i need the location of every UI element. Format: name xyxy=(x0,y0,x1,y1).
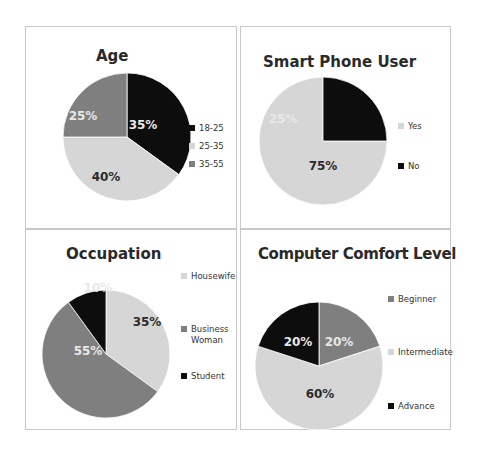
slice-value-label: 10% xyxy=(84,281,113,295)
slice-value-label: 60% xyxy=(306,387,335,401)
legend-label: Business Woman xyxy=(191,324,228,346)
pie-slice-no xyxy=(323,77,387,141)
swatch-35-55 xyxy=(189,161,195,167)
legend-item-18-25: 18-25 xyxy=(189,123,224,134)
legend-label: Student xyxy=(191,371,224,382)
legend-label: 35-55 xyxy=(199,159,224,170)
legend-label: 25-35 xyxy=(199,141,224,152)
slice-value-label: 20% xyxy=(325,335,354,349)
swatch-student xyxy=(181,373,187,379)
legend-item-yes: Yes xyxy=(398,121,422,132)
legend-item-no: No xyxy=(398,161,420,172)
age-chart-panel: Age 35%40%25% 18-25 25-35 35-55 xyxy=(25,26,237,229)
legend-label: No xyxy=(408,161,420,172)
slice-value-label: 35% xyxy=(133,315,162,329)
swatch-intermediate xyxy=(388,349,394,355)
pie-slice-35-55 xyxy=(63,73,127,137)
slice-value-label: 55% xyxy=(74,344,103,358)
legend-label: Beginner xyxy=(398,294,436,305)
swatch-business-woman xyxy=(181,326,187,332)
swatch-housewife xyxy=(181,273,187,279)
slice-value-label: 40% xyxy=(92,170,121,184)
slice-value-label: 75% xyxy=(309,159,338,173)
swatch-25-35 xyxy=(189,143,195,149)
comfort-chart-panel: Computer Comfort Level 20%60%20% Beginne… xyxy=(240,229,451,430)
legend-item-student: Student xyxy=(181,371,224,382)
swatch-yes xyxy=(398,123,404,129)
swatch-18-25 xyxy=(189,125,195,131)
legend-label: Yes xyxy=(408,121,422,132)
legend-label: Intermediate xyxy=(398,347,453,358)
swatch-beginner xyxy=(388,296,394,302)
legend-label: Housewife xyxy=(191,271,235,282)
legend-item-advance: Advance xyxy=(388,401,435,412)
slice-value-label: 35% xyxy=(129,118,158,132)
slice-value-label: 20% xyxy=(284,335,313,349)
legend-item-25-35: 25-35 xyxy=(189,141,224,152)
slice-value-label: 25% xyxy=(269,112,298,126)
occupation-chart-panel: Occupation 35%55%10% Housewife Business … xyxy=(25,229,237,430)
legend-item-housewife: Housewife xyxy=(181,271,235,282)
legend-item-35-55: 35-55 xyxy=(189,159,224,170)
legend-label: 18-25 xyxy=(199,123,224,134)
legend-item-intermediate: Intermediate xyxy=(388,347,453,358)
legend-label: Advance xyxy=(398,401,435,412)
slice-value-label: 25% xyxy=(69,109,98,123)
swatch-no xyxy=(398,163,404,169)
legend-item-business-woman: Business Woman xyxy=(181,324,228,346)
legend-item-beginner: Beginner xyxy=(388,294,436,305)
phone-chart-panel: Smart Phone User 75%25% Yes No xyxy=(240,26,451,229)
swatch-advance xyxy=(388,403,394,409)
